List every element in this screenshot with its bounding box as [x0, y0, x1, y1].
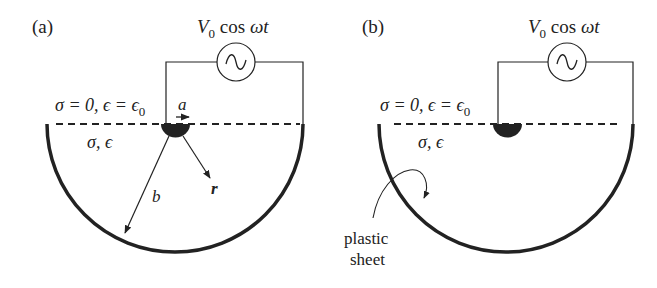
upper-region-label-b: σ = 0, ϵ = ϵ0 — [380, 96, 470, 118]
panel-label-b: (b) — [362, 17, 384, 36]
upper-region-subscript: 0 — [139, 104, 146, 119]
circuit-wire-b-right — [586, 62, 633, 124]
radius-r-arrow — [183, 136, 210, 178]
source-v: V — [528, 16, 540, 37]
upper-region-label-a: σ = 0, ϵ = ϵ0 — [55, 96, 145, 118]
electrode-radius-label: a — [178, 96, 187, 113]
upper-region-text: σ = 0, ϵ = ϵ — [380, 95, 464, 115]
source-cos: cos — [215, 16, 250, 37]
source-label-b: V0 cos ωt — [528, 17, 600, 40]
circuit-wire-a — [166, 62, 217, 124]
circuit-wire-b — [498, 62, 548, 124]
circuit-wire-a-right — [255, 62, 303, 124]
plastic-sheet-label-line2: sheet — [350, 251, 385, 268]
lower-region-label-a: σ, ϵ — [87, 133, 112, 151]
outer-radius-label: b — [152, 188, 161, 205]
panel-label-a: (a) — [32, 17, 53, 36]
radius-b-arrow — [125, 136, 169, 233]
electrode-a — [161, 124, 190, 137]
lower-region-label-b: σ, ϵ — [418, 133, 443, 151]
panel-b — [373, 43, 633, 252]
hemisphere-boundary-a — [47, 124, 303, 252]
panel-a — [47, 43, 303, 252]
electrode-b — [493, 124, 522, 137]
source-label-a: V0 cos ωt — [197, 17, 269, 40]
source-omega-t: ωt — [581, 16, 600, 37]
upper-region-text: σ = 0, ϵ = ϵ — [55, 95, 139, 115]
radial-label: r — [211, 180, 218, 197]
source-v: V — [197, 16, 209, 37]
source-cos: cos — [546, 16, 581, 37]
source-omega-t: ωt — [250, 16, 269, 37]
upper-region-subscript: 0 — [464, 104, 471, 119]
plastic-sheet-label-line1: plastic — [344, 230, 388, 247]
